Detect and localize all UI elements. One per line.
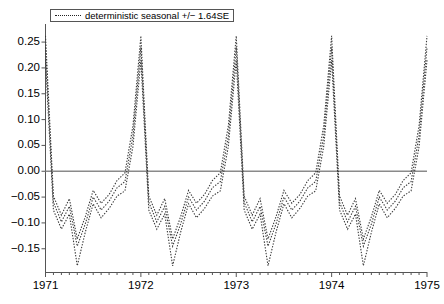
series-line [46,36,428,239]
legend-line-swatch [55,15,81,17]
y-tick-label: −0.15 [0,242,40,254]
series-line [46,60,428,266]
x-tick-label: 1972 [111,279,171,291]
y-tick-label: 0.05 [0,138,40,150]
y-tick-label: 0.00 [0,164,40,176]
y-tick-label: −0.10 [0,216,40,228]
legend-label: deterministic seasonal +/− 1.64SE [85,10,229,21]
y-tick-label: 0.15 [0,87,40,99]
y-tick-label: −0.05 [0,190,40,202]
y-tick-label: 0.25 [0,35,40,47]
data-series-group [46,36,428,266]
legend: deterministic seasonal +/− 1.64SE [50,9,234,22]
y-tick-label: 0.10 [0,113,40,125]
x-tick-label: 1971 [16,279,76,291]
y-tick-marks [42,42,46,249]
x-tick-label: 1975 [397,279,444,291]
x-tick-label: 1974 [302,279,362,291]
x-tick-label: 1973 [206,279,266,291]
y-tick-label: 0.20 [0,61,40,73]
